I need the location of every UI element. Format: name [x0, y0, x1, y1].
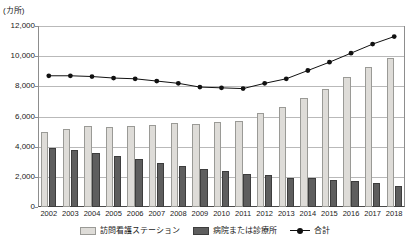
- total-line-marker: [90, 74, 95, 79]
- legend-label: 病院または診療所: [213, 226, 277, 235]
- total-line-marker: [111, 76, 116, 81]
- x-axis-tick-label: 2015: [321, 209, 338, 218]
- plot-area: [38, 26, 405, 207]
- x-axis: 2002200320042005200620072008200920102011…: [38, 209, 405, 221]
- total-line-marker: [219, 85, 224, 90]
- x-axis-tick-label: 2016: [343, 209, 360, 218]
- line-series-layer: [38, 26, 405, 207]
- y-axis-tick-label: 6,000: [0, 113, 35, 121]
- x-axis-tick-label: 2011: [235, 209, 251, 218]
- total-line-series: [38, 26, 405, 207]
- total-line-path: [49, 37, 394, 89]
- x-axis-tick-label: 2010: [213, 209, 230, 218]
- legend-line-marker-icon: [290, 227, 310, 235]
- total-line-marker: [198, 85, 203, 90]
- x-axis-tick-label: 2004: [84, 209, 101, 218]
- chart-container: (カ所) 12,00010,0008,0006,0004,0002,0000 2…: [0, 0, 409, 244]
- x-axis-tick-label: 2008: [170, 209, 187, 218]
- total-line-marker: [284, 76, 289, 81]
- total-line-marker: [154, 79, 159, 84]
- total-line-marker: [133, 76, 138, 81]
- x-axis-tick-label: 2014: [300, 209, 317, 218]
- y-axis-unit-label: (カ所): [3, 6, 24, 16]
- y-axis-tick-label: 4,000: [0, 143, 35, 151]
- x-axis-tick-label: 2005: [105, 209, 122, 218]
- legend-label: 合計: [314, 226, 330, 235]
- x-axis-tick-label: 2012: [256, 209, 273, 218]
- legend-swatch-icon: [80, 227, 96, 235]
- y-axis-tick-label: 12,000: [0, 22, 35, 30]
- total-line-marker: [349, 51, 354, 56]
- total-line-marker: [392, 34, 397, 39]
- y-axis-tick-label: 2,000: [0, 173, 35, 181]
- total-line-marker: [46, 73, 51, 78]
- x-axis-tick-label: 2013: [278, 209, 295, 218]
- y-axis-tick-mark: [35, 207, 38, 208]
- total-line-marker: [68, 73, 73, 78]
- x-axis-tick-label: 2003: [62, 209, 79, 218]
- x-axis-tick-label: 2002: [40, 209, 57, 218]
- y-axis-tick-label: 8,000: [0, 82, 35, 90]
- x-axis-tick-label: 2007: [148, 209, 165, 218]
- x-axis-tick-label: 2018: [386, 209, 403, 218]
- total-line-marker: [262, 81, 267, 86]
- legend-label: 訪問看護ステーション: [100, 226, 180, 235]
- total-line-marker: [370, 42, 375, 47]
- y-axis: 12,00010,0008,0006,0004,0002,0000: [0, 26, 35, 207]
- chart-legend: 訪問看護ステーション病院または診療所合計: [0, 226, 409, 235]
- total-line-marker: [327, 60, 332, 65]
- y-axis-tick-label: 10,000: [0, 52, 35, 60]
- legend-item[interactable]: 合計: [290, 226, 330, 235]
- x-axis-tick-label: 2009: [192, 209, 209, 218]
- legend-item[interactable]: 病院または診療所: [193, 226, 277, 235]
- total-line-marker: [176, 81, 181, 86]
- total-line-marker: [305, 68, 310, 73]
- legend-swatch-icon: [193, 227, 209, 235]
- total-line-marker: [241, 86, 246, 91]
- x-axis-tick-label: 2006: [127, 209, 144, 218]
- x-axis-tick-label: 2017: [364, 209, 381, 218]
- y-axis-tick-label: 0: [0, 203, 35, 211]
- legend-item[interactable]: 訪問看護ステーション: [80, 226, 180, 235]
